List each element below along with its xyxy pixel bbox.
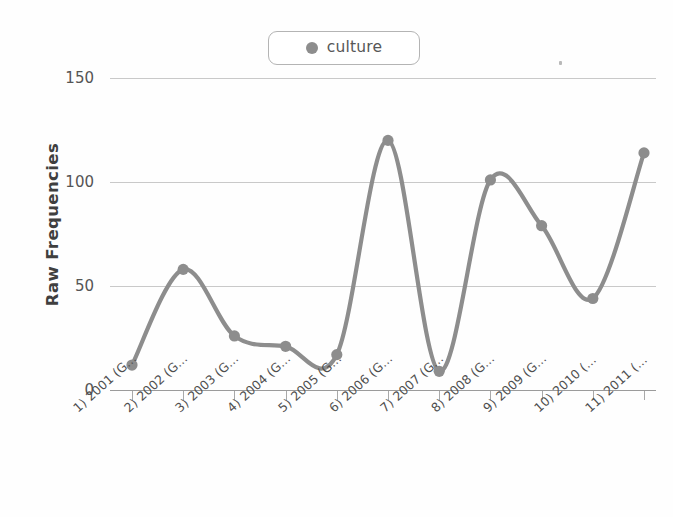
data-point-marker[interactable] xyxy=(536,220,547,231)
legend-item-label: culture xyxy=(327,40,383,56)
data-point-marker[interactable] xyxy=(382,135,393,146)
y-tick-label: 150 xyxy=(48,69,94,87)
data-point-marker[interactable] xyxy=(229,330,240,341)
data-point-marker[interactable] xyxy=(587,293,598,304)
data-point-marker[interactable] xyxy=(178,264,189,275)
plot-area xyxy=(110,78,656,390)
y-axis-tick-labels: 150 100 50 0 xyxy=(42,0,94,517)
data-point-marker[interactable] xyxy=(638,147,649,158)
y-tick-label: 50 xyxy=(48,277,94,295)
y-tick-label: 100 xyxy=(48,173,94,191)
chart-legend[interactable]: culture xyxy=(268,31,420,65)
series-culture-line xyxy=(110,78,656,390)
scan-artifact-speck xyxy=(559,61,562,65)
x-tick-mark xyxy=(644,391,645,400)
chart-container: culture Raw Frequencies 150 100 50 0 1) … xyxy=(0,0,673,517)
series-path xyxy=(132,140,644,371)
circle-marker-icon xyxy=(306,42,318,54)
data-point-marker[interactable] xyxy=(485,174,496,185)
